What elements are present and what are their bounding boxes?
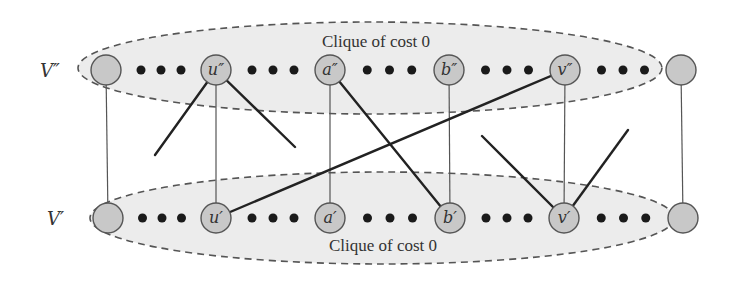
ellipsis-dot (290, 66, 299, 75)
node-label: v″ (557, 60, 572, 79)
ellipsis-dot (408, 214, 417, 223)
ellipsis-dot (177, 214, 186, 223)
ellipsis-dot (386, 214, 395, 223)
ellipsis-dot (619, 214, 628, 223)
ellipsis-dot (641, 214, 650, 223)
ellipsis-dot (597, 66, 606, 75)
node-b1: b′ (435, 203, 465, 233)
ellipsis-dot (269, 214, 278, 223)
node-label: v′ (558, 208, 571, 227)
node-b0 (93, 203, 123, 233)
node-u2: u″ (201, 55, 231, 85)
node-circle (666, 55, 696, 85)
node-circle (91, 55, 121, 85)
node-circle (668, 203, 698, 233)
node-t0 (91, 55, 121, 85)
ellipsis-dot (640, 66, 649, 75)
ellipsis-dot (248, 66, 257, 75)
clique-diagram: Clique of cost 0 Clique of cost 0 V″ V′ … (0, 0, 755, 282)
ellipsis-dot (407, 66, 416, 75)
ellipsis-dot (137, 66, 146, 75)
ellipsis-dot (524, 214, 533, 223)
top-clique-label: Clique of cost 0 (322, 32, 430, 51)
node-label: a″ (322, 60, 338, 79)
ellipsis-dot (290, 214, 299, 223)
ellipsis-dot (157, 66, 166, 75)
ellipsis-dot (138, 214, 147, 223)
ellipsis-dot (158, 214, 167, 223)
node-label: b″ (441, 60, 457, 79)
node-u1: u′ (201, 203, 231, 233)
set-label-v-double-prime: V″ (40, 60, 60, 81)
ellipsis-dot (248, 214, 257, 223)
node-b2: b″ (434, 55, 464, 85)
node-circle (93, 203, 123, 233)
ellipsis-dot (177, 66, 186, 75)
edge-t0-b0 (106, 70, 108, 218)
ellipsis-dot (503, 214, 512, 223)
node-v2: v″ (550, 55, 580, 85)
node-a1: a′ (315, 203, 345, 233)
ellipsis-dot (482, 214, 491, 223)
ellipsis-dot (363, 66, 372, 75)
ellipsis-dot (385, 66, 394, 75)
node-t5 (666, 55, 696, 85)
ellipsis-dot (363, 214, 372, 223)
ellipsis-dot (503, 66, 512, 75)
node-a2: a″ (315, 55, 345, 85)
ellipsis-dot (269, 66, 278, 75)
ellipsis-dot (524, 66, 533, 75)
node-label: u′ (209, 208, 223, 227)
node-label: a′ (323, 208, 337, 227)
node-b5 (668, 203, 698, 233)
bottom-clique-label: Clique of cost 0 (329, 236, 437, 255)
ellipsis-dot (597, 214, 606, 223)
ellipsis-dot (481, 66, 490, 75)
ellipsis-dot (619, 66, 628, 75)
set-label-v-prime: V′ (47, 208, 64, 229)
node-label: u″ (208, 60, 224, 79)
edge-t5-b5 (681, 70, 683, 218)
node-v1: v′ (549, 203, 579, 233)
node-label: b′ (443, 208, 457, 227)
